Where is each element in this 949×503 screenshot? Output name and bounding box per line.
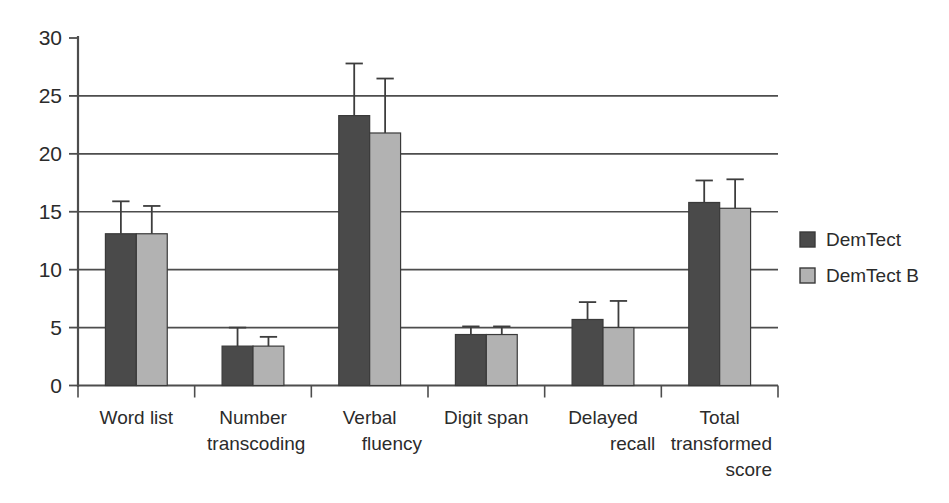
y-tick-label: 15: [39, 200, 62, 223]
bar: [455, 335, 486, 386]
legend-swatch: [800, 232, 815, 247]
x-category-label: Digit span: [444, 407, 529, 428]
legend-label: DemTect: [826, 229, 902, 250]
bar: [105, 234, 136, 386]
legend-label: DemTect B: [826, 265, 919, 286]
bar: [720, 208, 751, 385]
bar: [572, 319, 603, 385]
x-category-label: Number: [219, 407, 287, 428]
bar-chart: 051015202530 Word listNumbertranscodingV…: [0, 0, 949, 503]
legend-swatch: [800, 268, 815, 283]
y-tick-label: 20: [39, 142, 62, 165]
bar: [339, 116, 370, 386]
y-tick-label: 25: [39, 84, 62, 107]
bar: [370, 133, 401, 386]
x-category-label: Word list: [100, 407, 174, 428]
y-tick-label: 10: [39, 258, 62, 281]
bar: [222, 346, 253, 385]
x-category-label: Total: [700, 407, 740, 428]
x-category-label: score: [726, 459, 772, 480]
bar: [486, 335, 517, 386]
y-tick-label: 30: [39, 26, 62, 49]
chart-container: 051015202530 Word listNumbertranscodingV…: [0, 0, 949, 503]
x-category-label: fluency: [362, 433, 423, 454]
bar: [253, 346, 284, 385]
bar: [603, 328, 634, 386]
y-tick-label: 5: [50, 316, 62, 339]
x-category-label: transformed: [671, 433, 772, 454]
x-category-label: Verbal: [343, 407, 397, 428]
bar: [689, 202, 720, 385]
x-category-label: Delayed: [568, 407, 638, 428]
bar: [136, 234, 167, 386]
x-category-label: transcoding: [207, 433, 305, 454]
x-category-label: recall: [610, 433, 655, 454]
y-tick-label: 0: [50, 374, 62, 397]
